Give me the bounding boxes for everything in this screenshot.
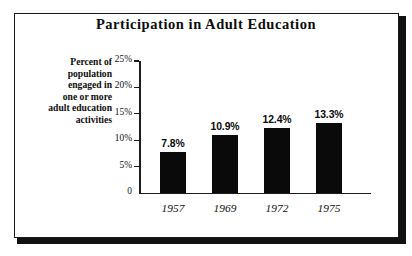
bar-group: 12.4% [251, 61, 303, 193]
bar-group: 10.9% [199, 61, 251, 193]
x-axis-label: 1975 [303, 202, 355, 214]
y-axis-caption-line: activities [8, 114, 112, 126]
bar-group: 7.8% [147, 61, 199, 193]
bar-value-label: 12.4% [251, 114, 303, 125]
bar [316, 123, 342, 193]
bar-series: 7.8%10.9%12.4%13.3% [139, 61, 371, 193]
bar [212, 135, 238, 193]
y-axis-tick-label: 20% [115, 80, 132, 90]
bar [160, 152, 186, 193]
chart-title: Participation in Adult Education [0, 16, 412, 33]
y-axis-tick-label: 0 [127, 186, 132, 196]
bar-value-label: 13.3% [303, 109, 355, 120]
y-axis-caption-line: adult education [8, 102, 112, 114]
y-axis-caption: Percent of population engaged in one or … [8, 56, 112, 126]
bar-group: 13.3% [303, 61, 355, 193]
y-axis-caption-line: one or more [8, 91, 112, 103]
x-axis-label: 1957 [147, 202, 199, 214]
x-axis-label: 1969 [199, 202, 251, 214]
y-axis-caption-line: population [8, 68, 112, 80]
y-axis-tick-label: 10% [115, 133, 132, 143]
plot-area: 05%10%15%20%25% 7.8%10.9%12.4%13.3% 1957… [112, 56, 374, 226]
bar-value-label: 10.9% [199, 121, 251, 132]
bar [264, 128, 290, 193]
y-axis-caption-line: engaged in [8, 79, 112, 91]
y-axis-tick-label: 5% [120, 160, 133, 170]
x-axis-label: 1972 [251, 202, 303, 214]
x-axis-labels: 1957196919721975 [139, 202, 371, 222]
chart-figure: Participation in Adult Education Percent… [0, 0, 412, 256]
y-axis-tick-label: 15% [115, 107, 132, 117]
bar-value-label: 7.8% [147, 138, 199, 149]
y-axis-tick-label: 25% [115, 54, 132, 64]
y-axis-caption-line: Percent of [8, 56, 112, 68]
